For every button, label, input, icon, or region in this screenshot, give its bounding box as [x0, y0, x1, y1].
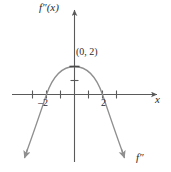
x-axis-label: x [155, 94, 160, 105]
x-tick-label-neg2: –2 [38, 98, 48, 108]
plot-canvas [0, 0, 171, 172]
vertex-point-label: (0, 2) [76, 47, 98, 57]
x-tick-label-pos2: 2 [101, 98, 106, 108]
curve-arrow-right [121, 149, 124, 158]
math-figure-parabola: f″(x) x (0, 2) –2 2 f″ [0, 0, 171, 172]
curve-arrow-left [25, 149, 28, 158]
y-axis-label: f″(x) [39, 2, 59, 13]
curve-name-label: f″ [136, 152, 144, 163]
